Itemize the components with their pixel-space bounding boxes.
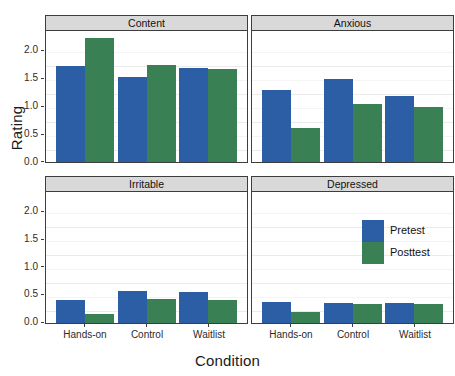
y-tick-label-top-1.0: 1.0 <box>12 100 38 111</box>
gridline-minor <box>252 269 453 270</box>
y-tick-mark <box>41 161 44 162</box>
y-tick-label-top-0.0: 0.0 <box>12 156 38 167</box>
legend-label-pretest: Pretest <box>390 224 425 236</box>
y-tick-label-top-1.5: 1.5 <box>12 72 38 83</box>
facet-strip-label-anxious: Anxious <box>251 15 454 31</box>
facet-panel-anxious <box>251 30 454 163</box>
y-tick-mark <box>41 134 44 135</box>
y-tick-mark <box>41 239 44 240</box>
bar-depressed-hands-on-posttest <box>291 312 320 323</box>
gridline-minor <box>46 269 247 270</box>
x-tick-label-control-left: Control <box>119 329 175 340</box>
bar-depressed-waitlist-pretest <box>385 303 414 323</box>
bar-content-hands-on-pretest <box>56 66 85 162</box>
gridline-minor <box>46 213 247 214</box>
legend-swatch-posttest <box>362 242 384 264</box>
x-tick-mark <box>146 324 147 327</box>
y-tick-mark <box>41 294 44 295</box>
bar-content-hands-on-posttest <box>85 38 114 162</box>
bar-content-control-pretest <box>118 77 147 162</box>
facet-strip-label-content: Content <box>45 15 248 31</box>
bar-content-waitlist-posttest <box>208 69 237 162</box>
y-tick-mark <box>41 78 44 79</box>
bar-anxious-control-posttest <box>353 104 382 162</box>
legend-label-posttest: Posttest <box>390 246 430 258</box>
bar-anxious-waitlist-pretest <box>385 96 414 162</box>
bar-content-waitlist-pretest <box>179 68 208 162</box>
facet-content: Content <box>45 15 248 163</box>
x-tick-label-waitlist-left: Waitlist <box>181 329 237 340</box>
bar-content-control-posttest <box>147 65 176 162</box>
bar-depressed-control-posttest <box>353 304 382 323</box>
bar-depressed-hands-on-pretest <box>262 302 291 323</box>
y-tick-label-top-2.0: 2.0 <box>12 44 38 55</box>
legend-swatch-pretest <box>362 220 384 242</box>
bar-irritable-hands-on-pretest <box>56 300 85 323</box>
bar-anxious-hands-on-posttest <box>291 128 320 162</box>
y-tick-mark <box>41 50 44 51</box>
y-tick-label-bottom-0.0: 0.0 <box>12 316 38 327</box>
legend-row-pretest: Pretest <box>362 220 448 242</box>
gridline-1.5 <box>46 255 247 256</box>
bar-anxious-control-pretest <box>324 79 353 162</box>
facet-irritable: Irritable <box>45 176 248 324</box>
bar-irritable-waitlist-pretest <box>179 292 208 323</box>
gridline-minor <box>252 213 453 214</box>
x-tick-label-hands-on-left: Hands-on <box>57 329 113 340</box>
gridline-minor <box>46 52 247 53</box>
y-tick-label-bottom-2.0: 2.0 <box>12 205 38 216</box>
bar-irritable-hands-on-posttest <box>85 314 114 323</box>
bar-depressed-control-pretest <box>324 303 353 323</box>
y-tick-mark <box>41 211 44 212</box>
x-axis-title: Condition <box>0 352 455 369</box>
facet-strip-label-irritable: Irritable <box>45 176 248 192</box>
gridline-minor <box>46 241 247 242</box>
y-tick-mark <box>41 106 44 107</box>
legend-row-posttest: Posttest <box>362 242 448 264</box>
y-tick-label-bottom-1.0: 1.0 <box>12 261 38 272</box>
x-tick-mark <box>208 324 209 327</box>
facet-anxious: Anxious <box>251 15 454 163</box>
bar-irritable-waitlist-posttest <box>208 300 237 323</box>
gridline-1.0 <box>252 283 453 284</box>
gridline-2.0 <box>252 66 453 67</box>
bar-depressed-waitlist-posttest <box>414 304 443 323</box>
bar-irritable-control-pretest <box>118 291 147 323</box>
x-tick-mark <box>290 324 291 327</box>
gridline-minor <box>252 52 453 53</box>
y-tick-label-top-0.5: 0.5 <box>12 128 38 139</box>
x-tick-label-waitlist-right: Waitlist <box>387 329 443 340</box>
facet-panel-irritable <box>45 191 248 324</box>
gridline-minor <box>252 297 453 298</box>
x-tick-mark <box>84 324 85 327</box>
facet-panel-content <box>45 30 248 163</box>
y-tick-mark <box>41 266 44 267</box>
x-tick-label-control-right: Control <box>325 329 381 340</box>
gridline-2.0 <box>46 227 247 228</box>
gridline-1.0 <box>46 283 247 284</box>
y-tick-mark <box>41 322 44 323</box>
x-tick-label-hands-on-right: Hands-on <box>263 329 319 340</box>
x-tick-mark <box>352 324 353 327</box>
facet-strip-label-depressed: Depressed <box>251 176 454 192</box>
y-tick-label-bottom-1.5: 1.5 <box>12 233 38 244</box>
faceted-bar-chart: Rating Condition 2.0 1.5 1.0 0.5 0.0 2.0… <box>0 0 455 376</box>
bar-anxious-hands-on-pretest <box>262 90 291 162</box>
y-tick-label-bottom-0.5: 0.5 <box>12 288 38 299</box>
bar-irritable-control-posttest <box>147 299 176 323</box>
bar-anxious-waitlist-posttest <box>414 107 443 162</box>
legend: Pretest Posttest <box>362 220 448 264</box>
x-tick-mark <box>414 324 415 327</box>
